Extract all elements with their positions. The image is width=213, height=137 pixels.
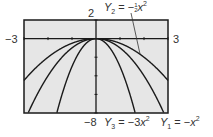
label-ymax: 2 [88, 8, 94, 19]
label-xmin: −3 [5, 34, 18, 45]
label-xmax: 3 [173, 34, 179, 45]
equation-y3: Y3 = −3x2 [104, 117, 150, 128]
label-ymin: −8 [84, 117, 97, 128]
equation-y2: Y2 = −12x2 [104, 2, 147, 13]
equation-y1: Y1 = −x2 [160, 117, 200, 128]
